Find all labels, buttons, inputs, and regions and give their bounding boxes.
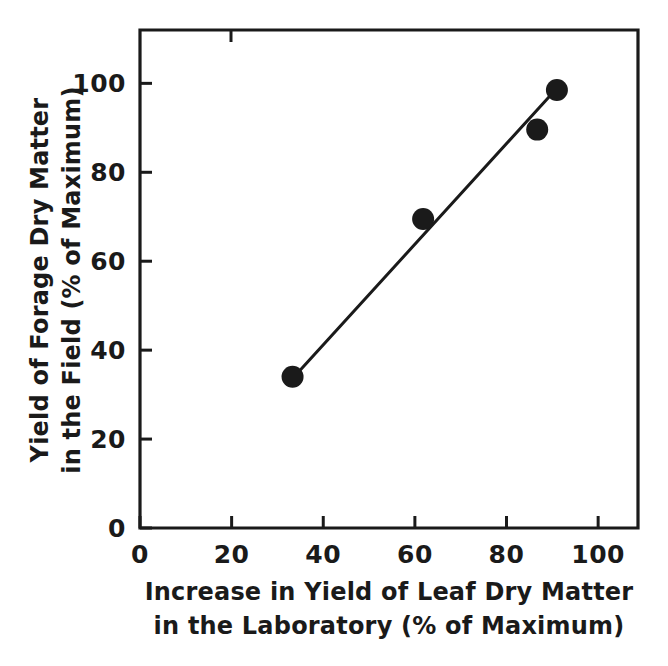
x-axis-title: Increase in Yield of Leaf Dry Matter in … [145,578,634,640]
y-tick-label-60: 60 [90,247,126,276]
data-point-4 [546,79,568,101]
y-tick-label-0: 0 [108,514,126,543]
x-axis-title-line2: in the Laboratory (% of Maximum) [154,612,625,640]
y-axis-title: Yield of Forage Dry Matter in the Field … [26,86,86,473]
axis-frame-path [140,30,638,528]
y-axis-title-line2: in the Field (% of Maximum) [58,86,86,473]
y-tick-label-40: 40 [90,336,126,365]
y-tick-label-20: 20 [90,425,126,454]
linear-fit-line [293,88,557,378]
x-tick-label-80: 80 [489,540,525,569]
data-point-3 [526,119,548,141]
chart-figure: 0 20 40 60 80 100 0 20 40 60 80 100 [0,0,668,666]
x-tick-label-60: 60 [397,540,433,569]
y-axis-ticks [140,83,152,528]
y-tick-label-80: 80 [90,158,126,187]
x-axis-ticks [140,30,598,528]
fit-line-group [293,88,557,378]
scatter-plot-svg: 0 20 40 60 80 100 0 20 40 60 80 100 [0,0,668,666]
x-tick-label-20: 20 [214,540,250,569]
x-axis-tick-labels: 0 20 40 60 80 100 [131,540,625,569]
x-tick-label-40: 40 [305,540,341,569]
data-point-1 [282,366,304,388]
x-tick-label-100: 100 [571,540,625,569]
plot-frame [140,30,638,528]
x-tick-label-0: 0 [131,540,149,569]
x-axis-title-line1: Increase in Yield of Leaf Dry Matter [145,578,634,606]
data-point-2 [412,208,434,230]
y-axis-title-line1: Yield of Forage Dry Matter [26,98,54,464]
